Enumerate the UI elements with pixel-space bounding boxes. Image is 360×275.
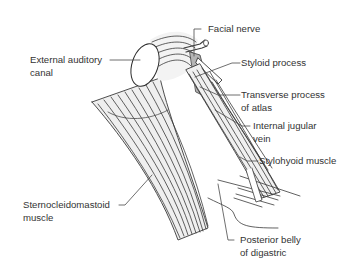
label-styloid-process: Styloid process (241, 57, 306, 70)
label-transverse-process-of-atlas: Transverse process of atlas (241, 89, 325, 114)
label-external-auditory-canal: External auditory canal (30, 54, 102, 79)
label-sternocleidomastoid-muscle: Sternocleidomastoid muscle (23, 199, 110, 224)
digastric-tendon-shape (208, 168, 300, 228)
label-facial-nerve: Facial nerve (208, 23, 260, 36)
label-internal-jugular-vein: Internal jugular vein (253, 120, 316, 145)
label-posterior-belly-of-digastric: Posterior belly of digastric (240, 234, 301, 259)
label-stylohyoid-muscle: Stylohyoid muscle (259, 155, 336, 168)
